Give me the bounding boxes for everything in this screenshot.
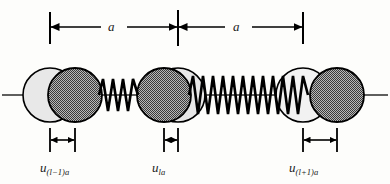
atom-group-l-minus-1 bbox=[23, 68, 102, 122]
displacement-label-l-plus-1: u(l+1)a bbox=[289, 161, 318, 176]
diagram-canvas bbox=[0, 0, 390, 184]
u-subscript: (l−1)a bbox=[47, 167, 70, 177]
displacement-label-l-minus-1: u(l−1)a bbox=[40, 161, 69, 176]
u-subscript: la bbox=[159, 167, 166, 177]
displacement-dimension-l-plus-1 bbox=[303, 128, 337, 152]
displacement-dimension-l-minus-1 bbox=[50, 128, 75, 152]
lattice-spacing-dimension bbox=[50, 10, 303, 46]
atom-displaced-circle bbox=[137, 68, 191, 122]
lattice-chain-figure: a a u(l−1)a ula u(l+1)a bbox=[0, 0, 390, 184]
atom-displaced-circle bbox=[48, 68, 102, 122]
u-subscript: (l+1)a bbox=[296, 167, 319, 177]
displacement-dimension-l bbox=[164, 128, 178, 152]
lattice-constant-label-left: a bbox=[108, 20, 115, 33]
atom-displaced-circle bbox=[310, 68, 364, 122]
lattice-constant-label-right: a bbox=[233, 20, 240, 33]
displacement-label-l: ula bbox=[152, 161, 165, 176]
